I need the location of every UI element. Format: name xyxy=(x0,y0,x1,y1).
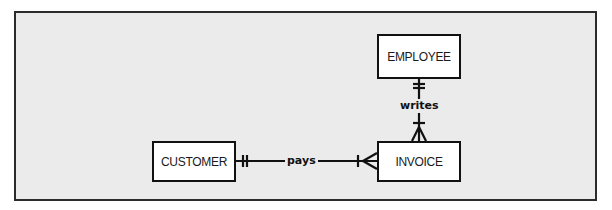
entity-label: CUSTOMER xyxy=(161,155,227,169)
relationship-label-writes: writes xyxy=(398,99,441,113)
entity-employee[interactable]: EMPLOYEE xyxy=(377,34,461,79)
entity-customer[interactable]: CUSTOMER xyxy=(152,141,236,182)
connector-layer xyxy=(0,0,612,210)
entity-label: EMPLOYEE xyxy=(387,50,451,64)
entity-label: INVOICE xyxy=(395,155,442,169)
relationship-label-pays: pays xyxy=(285,154,318,168)
entity-invoice[interactable]: INVOICE xyxy=(377,141,461,182)
